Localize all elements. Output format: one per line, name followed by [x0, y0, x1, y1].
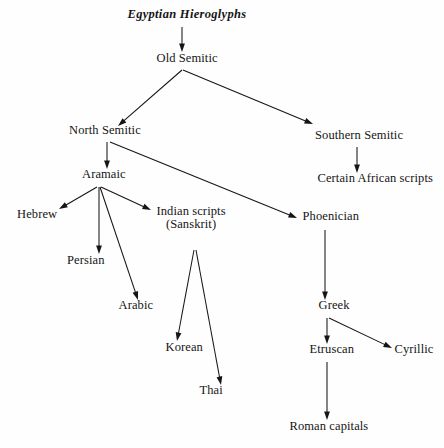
edge-aramaic-to-indian [101, 187, 151, 210]
edge-indian-to-thai [196, 250, 222, 385]
node-phoenician: Phoenician [303, 210, 360, 223]
node-label: Arabic [119, 298, 154, 312]
node-indian: Indian scripts(Sanskrit) [157, 205, 226, 231]
node-north_semitic: North Semitic [69, 124, 141, 137]
edge-aramaic-to-arabic [100, 187, 138, 300]
node-label: Etruscan [310, 342, 355, 356]
node-greek: Greek [319, 299, 350, 312]
node-korean: Korean [166, 341, 203, 354]
node-old_semitic: Old Semitic [157, 52, 218, 65]
node-label: North Semitic [69, 123, 141, 137]
lineage-diagram: Egyptian HieroglyphsOld SemiticNorth Sem… [0, 0, 444, 448]
edge-phoenician-to-greek [322, 230, 328, 300]
edge-north_semitic-to-aramaic [104, 142, 110, 169]
node-label-secondary: (Sanskrit) [157, 218, 226, 231]
node-label: Certain African scripts [318, 171, 433, 185]
node-arabic: Arabic [119, 299, 154, 312]
node-label: Southern Semitic [315, 128, 403, 142]
edge-indian-to-korean [176, 250, 194, 341]
node-label: Hebrew [17, 207, 57, 221]
edge-etruscan-to-roman [324, 362, 330, 420]
node-persian: Persian [67, 254, 105, 267]
edge-greek-to-etruscan [324, 318, 330, 344]
node-southern_semitic: Southern Semitic [315, 129, 403, 142]
node-hebrew: Hebrew [17, 208, 57, 221]
node-etruscan: Etruscan [310, 343, 355, 356]
edge-old_semitic-to-southern_semitic [183, 70, 313, 124]
node-label: Phoenician [303, 209, 360, 223]
node-label: Egyptian Hieroglyphs [128, 7, 247, 21]
edge-aramaic-to-persian [96, 187, 102, 254]
node-label: Persian [67, 253, 105, 267]
edge-southern_semitic-to-african [354, 147, 360, 173]
node-label: Roman capitals [290, 419, 369, 433]
edge-egyptian-to-old_semitic [179, 27, 185, 52]
node-thai: Thai [200, 384, 223, 397]
node-african: Certain African scripts [318, 172, 433, 185]
node-label: Greek [319, 298, 350, 312]
edge-old_semitic-to-north_semitic [118, 70, 182, 126]
node-egyptian: Egyptian Hieroglyphs [128, 8, 247, 21]
node-label: Cyrillic [395, 342, 434, 356]
node-label: Old Semitic [157, 51, 218, 65]
node-label: Aramaic [82, 167, 126, 181]
node-label: Indian scripts [157, 204, 226, 218]
node-label: Thai [200, 383, 223, 397]
edge-aramaic-to-hebrew [59, 187, 97, 209]
node-label: Korean [166, 340, 203, 354]
node-roman: Roman capitals [290, 420, 369, 433]
node-cyrillic: Cyrillic [395, 343, 434, 356]
node-aramaic: Aramaic [82, 168, 126, 181]
